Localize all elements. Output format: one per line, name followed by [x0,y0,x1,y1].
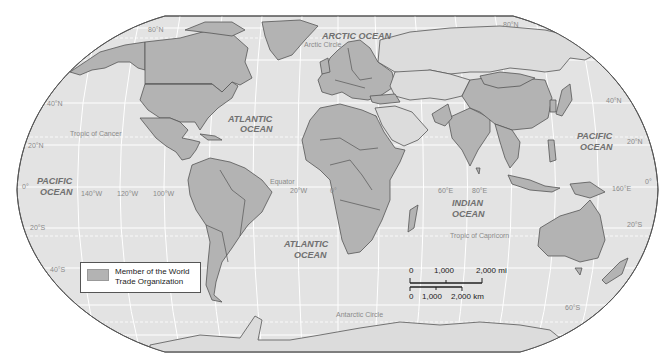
legend: Member of the World Trade Organization [80,262,201,293]
lat-20n-right: 20°N [627,138,643,145]
scale-km-0: 0 [409,292,413,301]
lat-20n-left: 20°N [28,142,44,149]
label-antarctic-circle: Antarctic Circle [336,311,383,318]
lat-40n-right: 40°N [606,97,622,104]
ocean-label-atlantic-south-2: OCEAN [294,250,327,260]
lon-120w: 120°W [117,190,138,197]
legend-line-2: Trade Organization [115,277,190,287]
lon-60e: 60°E [438,187,454,194]
ocean-label-pacific-west-2: OCEAN [40,187,73,197]
legend-swatch-member [87,269,109,281]
ocean-label-atlantic-north-1: ATLANTIC [227,114,273,124]
lat-80n-left: 80°N [148,26,164,33]
lat-40s-left: 40°S [50,266,66,273]
legend-label: Member of the World Trade Organization [115,267,190,287]
lon-80e: 80°E [472,187,488,194]
ocean-label-pacific-east-2: OCEAN [580,142,613,152]
land-turkey [370,94,400,104]
scale-km-2000: 2,000 km [451,292,484,301]
lon-140w: 140°W [81,190,102,197]
lat-20s-left: 20°S [30,224,46,231]
ocean-label-atlantic-north-2: OCEAN [240,124,273,134]
lon-0: 0° [330,187,337,194]
lat-40n-left: 40°N [47,100,63,107]
legend-line-1: Member of the World [115,267,190,277]
label-equator: Equator [270,178,295,186]
ocean-label-indian-2: OCEAN [452,209,485,219]
scale-km-1000: 1,000 [422,292,442,301]
label-arctic-circle: Arctic Circle [304,41,341,48]
label-tropic-capricorn: Tropic of Capricorn [450,232,509,240]
lon-160e: 160°E [612,185,631,192]
lat-0-left: 0° [22,183,29,190]
scale-bar: 0 1,000 2,000 mi 0 1,000 2,000 km [406,266,516,306]
lon-20w: 20°W [290,187,308,194]
ocean-label-pacific-east-1: PACIFIC [577,131,613,141]
ocean-label-indian-1: INDIAN [452,198,483,208]
lon-100w: 100°W [153,190,174,197]
lat-60s-right: 60°S [565,304,581,311]
lat-80n-right: 80°N [503,21,519,28]
land-korea [550,100,556,112]
ocean-label-arctic: ARCTIC OCEAN [321,31,391,41]
world-map: ARCTIC OCEAN ATLANTIC OCEAN ATLANTIC OCE… [0,0,672,364]
label-tropic-cancer: Tropic of Cancer [70,130,122,138]
lat-0-right: 0° [645,178,652,185]
lat-20s-right: 20°S [627,221,643,228]
ocean-label-pacific-west-1: PACIFIC [37,176,73,186]
ocean-label-atlantic-south-1: ATLANTIC [283,239,329,249]
